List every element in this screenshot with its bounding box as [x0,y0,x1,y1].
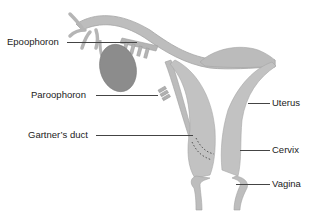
leader-cervix [240,150,270,151]
right-vaginal-wall [232,176,248,210]
label-gartners-duct: Gartner’s duct [28,130,88,140]
leader-paroophoron [96,95,158,96]
tube-ampulla [200,47,275,67]
label-paroophoron: Paroophoron [31,90,86,100]
anatomy-diagram [0,0,314,214]
right-uterine-half [221,62,276,176]
label-epoophoron: Epoophoron [7,37,59,47]
leader-epoophoron [67,42,137,43]
leader-vagina [236,184,270,185]
label-vagina: Vagina [272,179,301,189]
left-vaginal-wall [191,176,210,210]
leader-uterus [248,103,270,104]
label-uterus: Uterus [272,98,300,108]
leader-gartners-duct [96,135,193,136]
paroophoron-structure [158,86,170,101]
label-cervix: Cervix [272,145,299,155]
